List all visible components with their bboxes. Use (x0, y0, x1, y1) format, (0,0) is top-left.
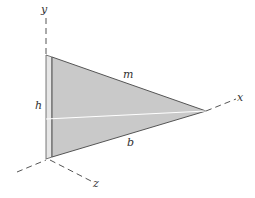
z-axis (50, 160, 91, 181)
height-label: h (35, 100, 42, 111)
triangle-plate-diagram: y x z m h b (0, 0, 255, 198)
x-axis-label: x (237, 92, 243, 103)
y-axis-label: y (41, 4, 47, 15)
z-axis-label: z (93, 178, 99, 189)
top-edge-label: m (123, 69, 133, 80)
x-axis (206, 99, 236, 111)
base-label: b (127, 137, 134, 148)
negative-x-axis (17, 160, 46, 172)
plate-thickness-edge (46, 55, 52, 159)
